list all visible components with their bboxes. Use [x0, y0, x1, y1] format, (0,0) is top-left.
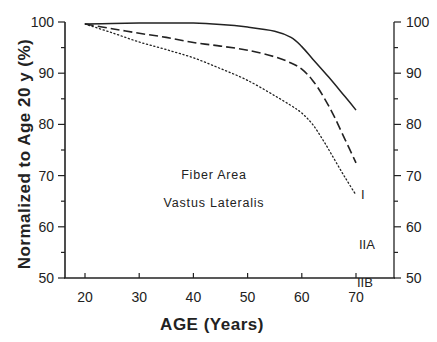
x-axis-title: AGE (Years)	[160, 315, 264, 334]
line-chart: 50607080901005060708090100203040506070 N…	[0, 0, 437, 342]
y-tick-label-left: 80	[38, 116, 54, 132]
y-tick-label-right: 70	[406, 168, 422, 184]
series-line-iia	[85, 24, 356, 163]
x-tick-label: 50	[240, 289, 256, 305]
y-tick-label-left: 70	[38, 168, 54, 184]
series-label-iia: IIA	[359, 237, 375, 252]
y-tick-label-right: 100	[406, 14, 430, 30]
y-tick-label-right: 60	[406, 219, 422, 235]
y-axis-title: Normalized to Age 20 y (%)	[15, 39, 34, 270]
y-tick-label-left: 90	[38, 65, 54, 81]
y-tick-label-left: 100	[31, 14, 55, 30]
series-label-i: I	[361, 187, 365, 202]
series-line-i	[85, 23, 356, 110]
x-tick-label: 40	[186, 289, 202, 305]
axes: 50607080901005060708090100203040506070	[31, 14, 430, 305]
y-tick-label-right: 80	[406, 116, 422, 132]
y-tick-label-left: 50	[38, 270, 54, 286]
annotation-fiber-area: Fiber Area	[181, 168, 247, 182]
y-tick-label-right: 90	[406, 65, 422, 81]
x-tick-label: 70	[348, 289, 364, 305]
series-label-iib: IIB	[357, 275, 373, 290]
x-tick-label: 30	[131, 289, 147, 305]
x-tick-label: 20	[77, 289, 93, 305]
y-tick-label-right: 50	[406, 270, 422, 286]
x-tick-label: 60	[294, 289, 310, 305]
y-tick-label-left: 60	[38, 219, 54, 235]
annotation-vastus-lateralis: Vastus Lateralis	[164, 196, 265, 210]
